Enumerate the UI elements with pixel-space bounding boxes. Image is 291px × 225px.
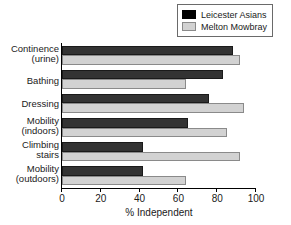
bar-mobility-indoors-leicester-asians — [62, 118, 188, 128]
x-tick-0 — [61, 188, 62, 192]
x-tick-label-40: 40 — [134, 193, 145, 204]
x-tick-60 — [177, 188, 178, 192]
bar-dressing-leicester-asians — [62, 94, 209, 104]
x-tick-label-100: 100 — [248, 193, 265, 204]
x-tick-20 — [100, 188, 101, 192]
category-label-line2: stairs — [22, 150, 59, 160]
plot-area: 020406080100 % Independent — [62, 43, 256, 188]
bar-mobility-outdoors-leicester-asians — [62, 166, 143, 176]
category-label-line1: Bathing — [27, 76, 59, 86]
category-label-mobility-outdoors: Mobility (outdoors) — [16, 164, 59, 184]
x-tick-label-0: 0 — [59, 193, 65, 204]
x-tick-80 — [216, 188, 217, 192]
x-tick-label-20: 20 — [95, 193, 106, 204]
bar-mobility-outdoors-melton-mowbray — [62, 176, 186, 186]
x-tick-label-60: 60 — [173, 193, 184, 204]
x-tick-label-80: 80 — [212, 193, 223, 204]
legend-item-melton-mowbray: Melton Mowbray — [182, 21, 267, 32]
legend-swatch-icon — [182, 10, 196, 19]
bar-climbing-stairs-leicester-asians — [62, 142, 143, 152]
x-axis-title: % Independent — [62, 207, 256, 218]
x-tick-40 — [139, 188, 140, 192]
legend-swatch-icon — [182, 22, 196, 31]
category-label-line2: (urine) — [11, 54, 59, 64]
x-tick-100 — [255, 188, 256, 192]
bar-climbing-stairs-melton-mowbray — [62, 152, 240, 162]
category-label-line2: (outdoors) — [16, 174, 59, 184]
legend-label: Melton Mowbray — [201, 22, 267, 32]
bar-continence-melton-mowbray — [62, 55, 240, 65]
category-label-bathing: Bathing — [27, 76, 59, 86]
bar-dressing-melton-mowbray — [62, 103, 244, 113]
bar-chart: Leicester Asians Melton Mowbray Continen… — [0, 0, 291, 225]
bar-bathing-melton-mowbray — [62, 79, 186, 89]
category-label-continence: Continence (urine) — [11, 44, 59, 64]
legend-item-leicester-asians: Leicester Asians — [182, 9, 267, 20]
bar-bathing-leicester-asians — [62, 70, 223, 80]
category-label-dressing: Dressing — [22, 99, 60, 109]
bar-continence-leicester-asians — [62, 46, 233, 56]
category-label-mobility-indoors: Mobility (indoors) — [22, 116, 60, 136]
category-label-line2: (indoors) — [22, 126, 60, 136]
x-axis-line — [61, 188, 256, 189]
chart-legend: Leicester Asians Melton Mowbray — [177, 4, 273, 37]
legend-label: Leicester Asians — [201, 10, 267, 20]
category-label-line1: Dressing — [22, 99, 60, 109]
category-label-climbing-stairs: Climbing stairs — [22, 140, 59, 160]
bar-mobility-indoors-melton-mowbray — [62, 128, 227, 138]
